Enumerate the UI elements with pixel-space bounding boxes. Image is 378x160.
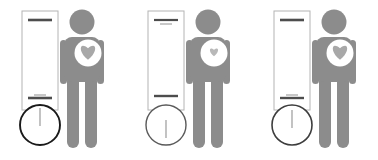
person-head	[196, 10, 221, 35]
person-leg-left	[193, 75, 205, 148]
circular-dial	[20, 105, 60, 145]
person-leg-right	[211, 75, 223, 148]
panel-svg-1	[0, 0, 126, 160]
vertical-gauge	[148, 11, 184, 110]
human-pictogram	[186, 10, 230, 149]
human-pictogram	[312, 10, 356, 149]
circular-dial	[146, 105, 186, 145]
person-head	[70, 10, 95, 35]
pictogram-panel	[0, 0, 126, 160]
heart-badge	[75, 40, 102, 67]
pictogram-panel	[252, 0, 378, 160]
figure-root	[0, 0, 378, 160]
heart-badge	[201, 40, 228, 67]
person-leg-right	[85, 75, 97, 148]
person-leg-left	[319, 75, 331, 148]
vertical-gauge	[22, 11, 58, 110]
person-leg-left	[67, 75, 79, 148]
panel-svg-2	[126, 0, 252, 160]
person-head	[322, 10, 347, 35]
panel-svg-3	[252, 0, 378, 160]
circular-dial	[272, 105, 312, 145]
pictogram-panel	[126, 0, 252, 160]
vertical-gauge	[274, 11, 310, 110]
human-pictogram	[60, 10, 104, 149]
heart-badge	[327, 40, 354, 67]
person-leg-right	[337, 75, 349, 148]
